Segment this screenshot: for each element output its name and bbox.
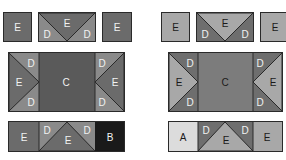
right-top-banner: D E D bbox=[196, 12, 254, 42]
left-mid-e: E bbox=[176, 77, 183, 88]
banner-center-label: E bbox=[64, 18, 71, 29]
left-mid-e: E bbox=[16, 77, 23, 88]
left-top-tile-e1: E bbox=[3, 12, 32, 42]
banner-center-label: E bbox=[223, 135, 230, 146]
left-middle-block: D E D C D E D bbox=[8, 52, 125, 112]
right-top-d: D bbox=[256, 58, 263, 69]
left-bottom-d: D bbox=[186, 97, 193, 108]
banner-right-label: D bbox=[241, 125, 248, 136]
right-bottom-d: D bbox=[98, 97, 105, 108]
center-c: C bbox=[221, 77, 228, 88]
right-bottom-strip: A D E D E bbox=[168, 121, 283, 152]
banner-center-label: E bbox=[222, 18, 229, 29]
banner-right-label: D bbox=[83, 125, 90, 136]
banner-left-label: D bbox=[43, 29, 50, 40]
tile-label: E bbox=[14, 22, 21, 33]
bottom-last-label: E bbox=[264, 132, 271, 143]
left-top-d: D bbox=[27, 58, 34, 69]
right-bottom-d: D bbox=[256, 97, 263, 108]
right-middle-block: D E D C D E D bbox=[168, 52, 283, 112]
right-top-tile-e1: E bbox=[161, 12, 190, 42]
banner-left-label: D bbox=[202, 125, 209, 136]
left-top-d: D bbox=[186, 58, 193, 69]
left-bottom-d: D bbox=[27, 97, 34, 108]
bottom-first-label: A bbox=[180, 132, 187, 143]
banner-right-label: D bbox=[241, 29, 248, 40]
bottom-first-label: E bbox=[21, 132, 28, 143]
right-mid-e: E bbox=[112, 77, 119, 88]
right-mid-e: E bbox=[270, 77, 277, 88]
right-top-d: D bbox=[98, 58, 105, 69]
tile-label: E bbox=[272, 22, 279, 33]
bottom-last-label: B bbox=[107, 132, 114, 143]
right-top-tile-e2: E bbox=[260, 12, 286, 42]
tile-label: E bbox=[114, 22, 121, 33]
tile-label: E bbox=[172, 22, 179, 33]
banner-center-label: E bbox=[65, 135, 72, 146]
left-bottom-strip: E D E D B bbox=[8, 121, 125, 152]
center-c: C bbox=[62, 77, 69, 88]
banner-left-label: D bbox=[201, 29, 208, 40]
left-top-tile-e2: E bbox=[102, 12, 132, 42]
banner-left-label: D bbox=[43, 125, 50, 136]
left-top-banner: D E D bbox=[38, 12, 96, 42]
banner-right-label: D bbox=[83, 29, 90, 40]
